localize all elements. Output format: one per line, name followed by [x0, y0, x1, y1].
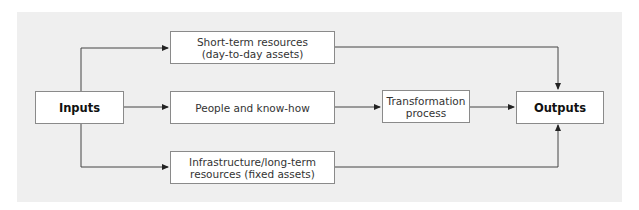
node-inputs: Inputs: [35, 91, 124, 124]
node-infrastructure: Infrastructure/long-term resources (fixe…: [170, 151, 335, 184]
node-outputs-label: Outputs: [534, 102, 586, 114]
arrow-inputs-to-short-term: [81, 48, 168, 91]
arrow-infrastructure-to-outputs: [335, 125, 558, 167]
node-short-term-resources: Short-term resources (day-to-day assets): [170, 31, 335, 64]
node-people-know-how: People and know-how: [170, 91, 335, 124]
node-outputs: Outputs: [516, 91, 604, 124]
node-infrastructure-label: Infrastructure/long-term resources (fixe…: [189, 156, 316, 180]
arrow-short-term-to-outputs: [335, 47, 558, 89]
arrow-inputs-to-infrastructure: [81, 124, 168, 167]
node-people-label: People and know-how: [195, 102, 310, 114]
node-inputs-label: Inputs: [59, 102, 100, 114]
node-transformation-label: Transformation process: [387, 95, 466, 119]
node-transformation-process: Transformation process: [382, 90, 470, 123]
node-short-term-label: Short-term resources (day-to-day assets): [197, 36, 308, 60]
